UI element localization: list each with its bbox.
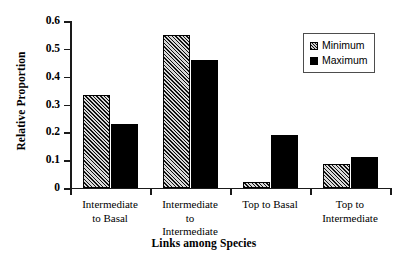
- x-category-label: Top toIntermediate: [298, 198, 402, 225]
- y-tick-label: 0.5: [26, 43, 60, 55]
- y-tick-label: 0: [26, 182, 60, 194]
- x-tick-mark: [150, 188, 152, 195]
- legend-swatch-maximum-icon: [310, 57, 318, 65]
- bar-minimum-3: [243, 182, 270, 188]
- legend-label-maximum: Maximum: [322, 55, 368, 66]
- x-category-label-line: Top to: [298, 198, 402, 212]
- x-tick-mark: [390, 188, 392, 195]
- x-category-label-line: to: [138, 212, 242, 226]
- legend-swatch-minimum-icon: [310, 42, 318, 50]
- x-tick-mark: [230, 188, 232, 195]
- bar-minimum-2: [163, 35, 190, 188]
- bar-maximum-4: [351, 157, 378, 188]
- y-tick-label: 0.6: [26, 15, 60, 27]
- bar-minimum-4: [323, 164, 350, 188]
- x-axis-title: Links among Species: [0, 237, 408, 249]
- bar-minimum-1: [83, 95, 110, 188]
- legend-label-minimum: Minimum: [322, 40, 365, 51]
- bar-maximum-2: [191, 60, 218, 188]
- y-tick-label: 0.3: [26, 99, 60, 111]
- chart-legend: Minimum Maximum: [303, 33, 375, 73]
- x-tick-mark: [310, 188, 312, 195]
- y-tick-label: 0.1: [26, 154, 60, 166]
- y-tick-label: 0.2: [26, 126, 60, 138]
- legend-item-minimum: Minimum: [310, 39, 368, 52]
- x-tick-mark: [70, 188, 72, 195]
- bar-maximum-1: [111, 124, 138, 188]
- y-tick-label: 0.4: [26, 71, 60, 83]
- bar-maximum-3: [271, 135, 298, 188]
- bar-chart-figure: Relative Proportion 00.10.20.30.40.50.6 …: [0, 0, 408, 257]
- legend-item-maximum: Maximum: [310, 54, 368, 67]
- x-category-label-line: Intermediate: [298, 212, 402, 226]
